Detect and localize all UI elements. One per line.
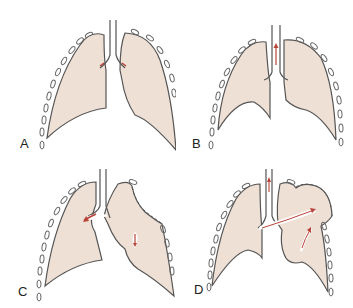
panel-label-c: C	[18, 284, 27, 299]
panel-label-b: B	[192, 136, 201, 151]
panel-b: B	[176, 0, 352, 154]
panel-label-d: D	[194, 282, 203, 297]
lungs-diagram-b	[176, 0, 352, 154]
panel-a: A	[0, 0, 176, 154]
panel-c: C	[0, 154, 176, 308]
panel-label-a: A	[20, 136, 29, 151]
panel-d: D	[176, 154, 352, 308]
lungs-diagram-a	[0, 0, 176, 154]
